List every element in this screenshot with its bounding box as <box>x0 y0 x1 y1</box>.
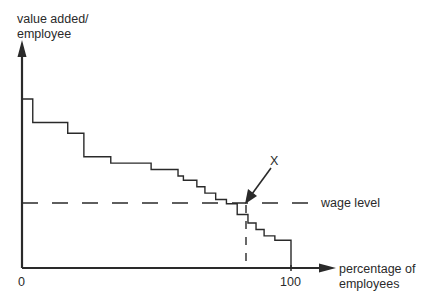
x-annotation-arrow <box>245 168 271 204</box>
x-axis-label: percentage of employees <box>339 262 415 292</box>
x-axis-label-line1: percentage of <box>339 262 415 277</box>
x-axis-label-line2: employees <box>339 277 415 292</box>
y-axis-arrow-icon <box>18 40 27 57</box>
chart-canvas <box>0 0 424 300</box>
y-axis-label: value added/ employee <box>17 12 89 42</box>
x-axis-arrow-icon <box>319 264 336 273</box>
arrowhead-icon <box>245 189 257 204</box>
axes <box>18 40 337 273</box>
y-axis-label-line1: value added/ <box>17 12 89 27</box>
y-axis-label-line2: employee <box>17 27 89 42</box>
x-tick-100: 100 <box>280 275 301 290</box>
wage-level-label: wage level <box>321 196 380 211</box>
x-tick-0: 0 <box>18 275 25 290</box>
point-x-label: X <box>270 154 278 169</box>
value-added-step-curve <box>22 99 291 268</box>
